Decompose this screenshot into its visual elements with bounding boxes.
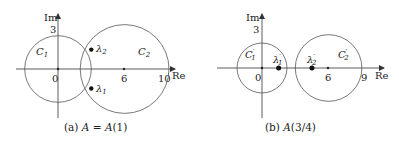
eigenvalue-dot-lambda1 (89, 86, 93, 90)
caption-a: (a) A = A(1) (64, 121, 127, 133)
origin-dot (57, 68, 59, 70)
y-tick-label: 3 (50, 24, 56, 35)
imag-axis-label: Im (246, 12, 260, 23)
real-axis-label: Re (172, 70, 186, 81)
real-axis-label: Re (375, 70, 389, 81)
imag-axis-label: Im (44, 12, 58, 23)
panel-b: Im Re 3 0 6 9 C′1 C′2 λ′1 λ′2 (b) A(3/4) (217, 12, 389, 133)
center-dot-6 (123, 68, 125, 70)
origin-dot (261, 67, 263, 69)
disc-label-c1: C1 (36, 46, 48, 59)
eigenvalue-dot-lambda2 (89, 47, 93, 51)
gershgorin-figure: Im Re 3 0 6 10 C1 C2 λ2 λ1 (a) A = A(1) … (0, 0, 399, 144)
x-tick-label-9: 9 (361, 72, 367, 83)
center-dot-6 (327, 67, 329, 69)
caption-b: (b) A(3/4) (265, 121, 316, 133)
disc-label-c2-prime: C′2 (338, 48, 349, 62)
eigenvalue-label-lambda2-prime: λ′2 (306, 53, 317, 67)
disc-label-c2: C2 (138, 46, 151, 59)
disc-label-c1-prime: C′1 (245, 48, 256, 62)
x-tick-label-6: 6 (121, 73, 127, 84)
y-tick-label: 3 (253, 24, 259, 35)
origin-label: 0 (255, 72, 261, 83)
eigenvalue-label-lambda1-prime: λ′1 (272, 53, 282, 67)
eigenvalue-label-lambda2: λ2 (95, 43, 107, 56)
origin-label: 0 (52, 73, 58, 84)
x-tick-label-6: 6 (325, 72, 331, 83)
panel-a: Im Re 3 0 6 10 C1 C2 λ2 λ1 (a) A = A(1) (16, 12, 186, 133)
eigenvalue-label-lambda1: λ1 (95, 83, 107, 96)
